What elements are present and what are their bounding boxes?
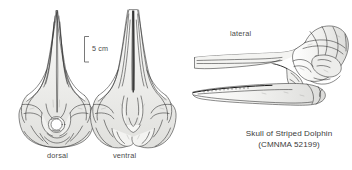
figure-caption: Skull of Striped Dolphin (CMNMA 52199) (228, 128, 350, 150)
view-label-dorsal: dorsal (47, 152, 68, 159)
mandible-drawing (193, 83, 325, 105)
scale-bar-label: 5 cm (92, 45, 108, 52)
ventral-view-drawing (90, 10, 176, 148)
caption-title: Skull of Striped Dolphin (228, 128, 350, 139)
dorsal-view-drawing (19, 11, 94, 148)
view-label-ventral: ventral (113, 152, 136, 159)
caption-catalog-number: (CMNMA 52199) (228, 139, 350, 150)
scale-bar (85, 37, 89, 63)
skull-figure-plate: dorsal ventral lateral 5 cm Skull of Str… (0, 0, 352, 170)
lateral-view-drawing (195, 26, 349, 91)
view-label-lateral: lateral (230, 30, 251, 37)
